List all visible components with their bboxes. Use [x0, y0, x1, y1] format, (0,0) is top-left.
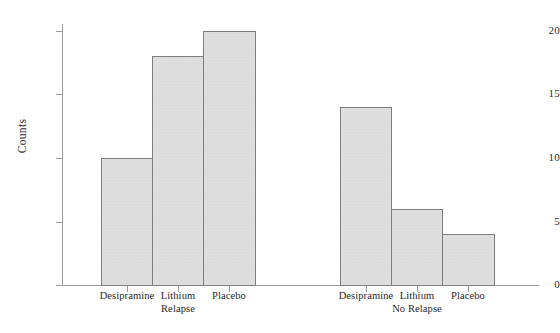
bar-no-relapse-desipramine — [340, 107, 392, 286]
y-tick-label-15: 15 — [512, 88, 560, 99]
bar-relapse-desipramine — [101, 158, 153, 286]
y-tick-mark-5 — [56, 222, 62, 223]
y-tick-label-0: 0 — [512, 279, 560, 290]
y-tick-label-5: 5 — [512, 216, 560, 227]
y-axis-title: Counts — [16, 96, 28, 176]
bar-no-relapse-placebo — [442, 234, 495, 286]
y-tick-label-20: 20 — [512, 25, 560, 36]
bar-no-relapse-lithium — [391, 209, 443, 286]
x-axis-group-label-relapse: Relapse — [138, 303, 218, 315]
y-tick-mark-10 — [56, 158, 62, 159]
bar-chart-figure: Counts 20 15 10 5 0 Desipramine Lithium … — [0, 0, 560, 333]
bar-relapse-lithium — [152, 56, 204, 286]
x-axis-group-label-no-relapse: No Relapse — [377, 303, 457, 315]
y-tick-mark-0 — [56, 285, 62, 286]
bar-relapse-placebo — [203, 31, 256, 286]
y-axis-line — [62, 24, 63, 286]
y-tick-mark-15 — [56, 94, 62, 95]
x-axis-label-no-relapse-placebo: Placebo — [428, 290, 508, 302]
y-tick-label-10: 10 — [512, 152, 560, 163]
y-tick-mark-20 — [56, 31, 62, 32]
x-axis-label-relapse-placebo: Placebo — [189, 290, 269, 302]
